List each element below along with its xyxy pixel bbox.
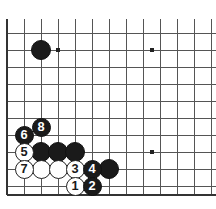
move-number-label: 3 <box>71 162 78 175</box>
white-move-3: 3 <box>66 160 85 179</box>
move-number-label: 1 <box>71 179 78 192</box>
black-move-6: 6 <box>15 126 34 145</box>
move-number-label: 2 <box>88 179 95 192</box>
move-number-label: 5 <box>20 145 27 158</box>
black-stone-f <box>99 159 119 179</box>
black-move-8: 8 <box>32 118 51 137</box>
white-stone-d <box>32 160 51 179</box>
star-point-upper-right <box>150 48 155 53</box>
white-move-5: 5 <box>15 143 34 162</box>
move-number-label: 7 <box>20 162 27 175</box>
black-corner-stone <box>31 40 51 60</box>
black-move-2: 2 <box>83 177 102 196</box>
white-move-7: 7 <box>15 160 34 179</box>
white-move-1: 1 <box>66 177 85 196</box>
go-diagram: 86573412 <box>0 0 216 209</box>
star-point-lower-right <box>150 150 155 155</box>
white-stone-e <box>49 160 68 179</box>
move-number-label: 6 <box>20 128 27 141</box>
black-move-4: 4 <box>83 160 102 179</box>
move-number-label: 4 <box>88 162 95 175</box>
star-point-upper-left <box>56 48 61 53</box>
move-number-label: 8 <box>37 120 44 133</box>
